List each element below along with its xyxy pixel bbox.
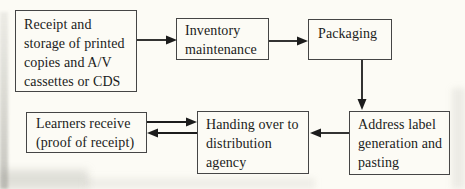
arrow-learners-to-handing-over — [147, 118, 197, 127]
arrow-receipt-to-inventory — [137, 36, 177, 45]
arrow-address-label-to-handing-over — [310, 129, 349, 138]
flow-arrows-layer — [0, 0, 465, 189]
arrow-packaging-to-address-label — [358, 60, 367, 110]
flowchart-canvas: Receipt and storage of printed copies an… — [0, 0, 465, 189]
arrow-inventory-to-packaging — [269, 37, 308, 46]
arrow-handing-over-to-learners — [147, 129, 197, 138]
